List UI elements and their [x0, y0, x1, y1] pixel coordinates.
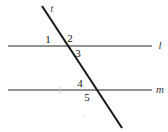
angle-label-3: 3 [75, 48, 81, 59]
geometry-diagram: 1 2 3 4 5 l m t s [0, 0, 168, 132]
angle-label-4: 4 [77, 78, 83, 89]
line-label-t: t [51, 4, 54, 14]
angle-label-5: 5 [84, 92, 90, 103]
line-label-m: m [156, 84, 164, 95]
scan-smudge-artifact: s [83, 112, 85, 118]
line-label-l: l [158, 40, 161, 51]
angle-label-1: 1 [45, 34, 51, 45]
line-t-transversal [42, 6, 122, 128]
angle-label-2: 2 [67, 33, 73, 44]
